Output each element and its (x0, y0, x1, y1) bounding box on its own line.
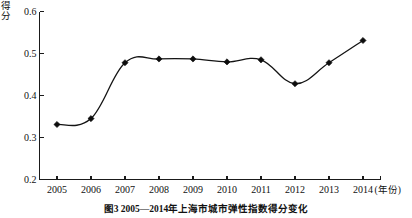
x-tick-label: 2009 (183, 184, 203, 195)
y-tick-label: 0.4 (24, 90, 37, 101)
x-tick-label: 2014 (353, 184, 373, 195)
figure-container: 得分 0.20.30.40.50.6 200520062007200820092… (0, 0, 412, 218)
series-line (57, 40, 363, 125)
x-tick-label: 2011 (251, 184, 271, 195)
figure-caption: 图3 2005—2014年上海市城市弹性指数得分变化 (0, 203, 412, 216)
x-tick-label: 2006 (81, 184, 101, 195)
line-chart: 0.20.30.40.50.6 200520062007200820092010… (0, 0, 412, 218)
x-tick-label: 2010 (217, 184, 237, 195)
data-point-marker (190, 56, 196, 62)
y-axis-ticks: 0.20.30.40.50.6 (24, 6, 44, 185)
axes (40, 12, 381, 180)
y-tick-label: 0.5 (24, 48, 37, 59)
x-tick-label: 2012 (285, 184, 305, 195)
y-tick-label: 0.3 (24, 132, 37, 143)
x-tick-label: 2013 (319, 184, 339, 195)
x-tick-label: 2008 (149, 184, 169, 195)
data-point-marker (292, 81, 298, 87)
x-tick-label: 2005 (47, 184, 67, 195)
series-markers (54, 37, 366, 127)
x-axis-ticks: 2005200620072008200920102011201220132014 (47, 176, 381, 195)
y-tick-label: 0.6 (24, 6, 37, 17)
y-tick-label: 0.2 (24, 174, 37, 185)
data-point-marker (224, 59, 230, 65)
data-point-marker (156, 56, 162, 62)
x-tick-label: 2007 (115, 184, 135, 195)
x-axis-unit-label: (年份) (375, 184, 401, 196)
data-point-marker (54, 121, 60, 127)
data-point-marker (258, 57, 264, 63)
